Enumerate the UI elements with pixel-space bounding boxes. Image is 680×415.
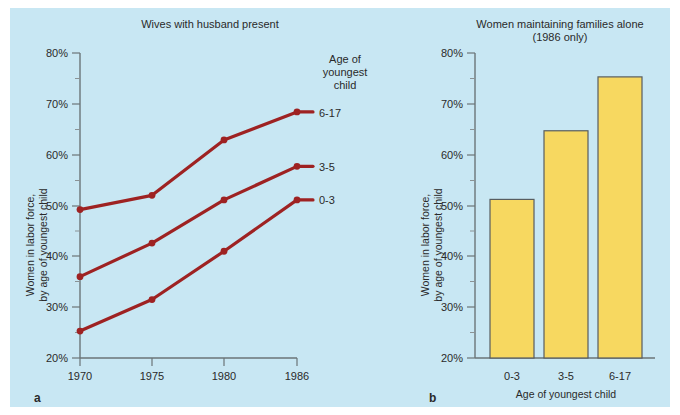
data-point-6-17-1980 <box>221 137 228 144</box>
panel-b-ytick-30: 30% <box>441 301 463 313</box>
series-line-6-17 <box>80 112 297 210</box>
panel-b-ylabel-line2: by age of youngest child <box>432 188 444 301</box>
panel-b-xlabel: Age of youngest child <box>516 388 617 400</box>
panel-b-xtick-6-17: 6-17 <box>609 370 631 382</box>
panel-b-ytick-50: 50% <box>441 200 463 212</box>
data-point-3-5-1975 <box>149 240 156 247</box>
panel-b-title-line1: Women maintaining families alone <box>476 18 643 30</box>
panel-a-ytick-50: 50% <box>46 200 68 212</box>
series-markers <box>77 109 313 335</box>
panel-a-ytick-30: 30% <box>46 301 68 313</box>
panel-a-xtick-1980: 1980 <box>212 370 236 382</box>
data-point-3-5-1980 <box>221 197 228 204</box>
panel-a-ytick-60: 60% <box>46 149 68 161</box>
panel-b-xtick-3-5: 3-5 <box>558 370 574 382</box>
data-point-6-17-1970 <box>77 206 84 213</box>
panel-a-xtick-1986: 1986 <box>285 370 309 382</box>
panel-b-ytick-40: 40% <box>441 250 463 262</box>
panel-a-x-ticks <box>80 358 297 366</box>
panel-a-title: Wives with husband present <box>141 18 279 30</box>
figure-page: Wives with husband present <box>0 0 680 415</box>
panel-a: Wives with husband present <box>24 18 367 405</box>
panel-b-letter: b <box>429 391 436 405</box>
data-point-3-5-1970 <box>77 273 84 280</box>
bar-0-3 <box>490 199 534 358</box>
panel-a-xtick-1975: 1975 <box>140 370 164 382</box>
panel-a-ylabel-line1: Women in labor force, <box>24 194 36 297</box>
data-point-6-17-1975 <box>149 192 156 199</box>
bar-6-17 <box>598 77 642 358</box>
series-label-6-17: 6-17 <box>319 107 341 119</box>
panel-b-y-ticks <box>467 53 475 358</box>
data-point-0-3-1980 <box>221 248 228 255</box>
panel-b-title-line2: (1986 only) <box>532 31 587 43</box>
series-label-3-5: 3-5 <box>319 161 335 173</box>
panel-a-ytick-40: 40% <box>46 250 68 262</box>
data-point-0-3-1970 <box>77 328 84 335</box>
panel-a-y-ticks <box>72 53 80 358</box>
panel-b-ylabel-line1: Women in labor force, <box>419 194 431 297</box>
legend-title-line2: youngest <box>323 66 368 78</box>
panel-a-ytick-80: 80% <box>46 47 68 59</box>
panel-a-ylabel-line2: by age of youngest child <box>37 188 49 301</box>
bar-group <box>490 77 642 358</box>
panel-b-ytick-80: 80% <box>441 47 463 59</box>
data-point-0-3-1975 <box>149 296 156 303</box>
panel-a-ytick-70: 70% <box>46 98 68 110</box>
panel-a-letter: a <box>34 391 41 405</box>
panel-a-xtick-1970: 1970 <box>68 370 92 382</box>
figure-svg: Wives with husband present <box>0 0 680 415</box>
panel-b: Women maintaining families alone (1986 o… <box>419 18 655 405</box>
series-label-0-3: 0-3 <box>319 194 335 206</box>
legend-title-line1: Age of <box>329 53 362 65</box>
panel-b-ytick-20: 20% <box>441 352 463 364</box>
panel-b-ytick-70: 70% <box>441 98 463 110</box>
bar-3-5 <box>544 131 588 358</box>
panel-a-ytick-20: 20% <box>46 352 68 364</box>
legend-title-line3: child <box>334 79 357 91</box>
panel-b-xtick-0-3: 0-3 <box>504 370 520 382</box>
panel-b-ytick-60: 60% <box>441 149 463 161</box>
